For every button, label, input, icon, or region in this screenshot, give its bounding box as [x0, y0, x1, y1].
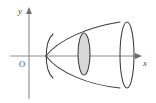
- solid-of-revolution-figure: y x O: [0, 0, 156, 103]
- origin-label: O: [19, 59, 25, 69]
- cross-section-disk: [78, 33, 90, 75]
- y-axis-label: y: [17, 6, 22, 16]
- right-end-face-ellipse: [120, 22, 134, 88]
- figure-container: y x O: [0, 0, 156, 103]
- x-axis-arrowhead: [135, 53, 142, 59]
- y-axis-arrowhead: [26, 7, 32, 14]
- y-axis-group: [26, 7, 32, 99]
- x-axis-label: x: [142, 58, 147, 68]
